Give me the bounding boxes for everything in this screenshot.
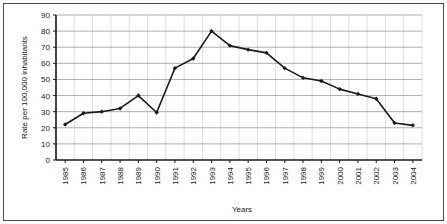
y-axis-tick-label: 40 <box>41 92 50 101</box>
x-axis-tick-label: 2003 <box>391 166 400 184</box>
x-axis-tick-label: 1994 <box>226 166 235 184</box>
x-axis-tick-label: 1987 <box>98 166 107 184</box>
x-axis-ticks: 1985198619871988198919901991199219931994… <box>61 160 418 185</box>
y-axis-title: Rate per 100,000 inhabitants <box>20 36 29 139</box>
line-chart: 0102030405060708090198519861987198819891… <box>0 0 447 224</box>
y-axis-tick-label: 20 <box>41 124 50 133</box>
y-axis-tick-label: 70 <box>41 43 50 52</box>
x-axis-tick-label: 1999 <box>317 166 326 184</box>
x-axis-tick-label: 2004 <box>409 166 418 184</box>
x-axis-tick-label: 1985 <box>61 166 70 184</box>
x-axis-tick-label: 1995 <box>244 166 253 184</box>
x-axis-tick-label: 1990 <box>153 166 162 184</box>
x-axis-tick-label: 1997 <box>281 166 290 184</box>
x-axis-tick-label: 1991 <box>171 166 180 184</box>
vertical-gridlines <box>56 15 422 160</box>
y-axis-tick-label: 10 <box>41 140 50 149</box>
chart-figure: 0102030405060708090198519861987198819891… <box>0 0 447 224</box>
x-axis-tick-label: 1986 <box>79 166 88 184</box>
x-axis-tick-label: 1988 <box>116 166 125 184</box>
x-axis-tick-label: 1992 <box>189 166 198 184</box>
y-axis-tick-label: 80 <box>41 27 50 36</box>
x-axis-tick-label: 1989 <box>134 166 143 184</box>
y-axis-tick-label: 90 <box>41 11 50 20</box>
x-axis-tick-label: 2001 <box>354 166 363 184</box>
x-axis-tick-label: 1993 <box>208 166 217 184</box>
y-axis-tick-label: 0 <box>46 156 51 165</box>
y-axis-tick-label: 50 <box>41 75 50 84</box>
x-axis-tick-label: 2002 <box>372 166 381 184</box>
x-axis-tick-label: 2000 <box>336 166 345 184</box>
x-axis-tick-label: 1998 <box>299 166 308 184</box>
x-axis-tick-label: 1996 <box>262 166 271 184</box>
x-axis-title: Years <box>232 205 252 214</box>
y-axis-tick-label: 30 <box>41 108 50 117</box>
y-axis-tick-label: 60 <box>41 59 50 68</box>
